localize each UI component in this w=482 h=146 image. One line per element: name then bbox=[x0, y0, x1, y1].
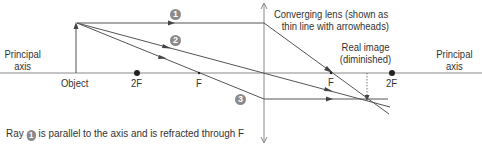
caption: Ray 1 is parallel to the axis and is ref… bbox=[6, 127, 244, 141]
ray-1-badge: 1 bbox=[170, 9, 181, 20]
right-2f-label: 2F bbox=[386, 77, 397, 89]
principal-axis-left-label: Principal axis bbox=[2, 48, 43, 72]
label-line: Principal bbox=[2, 48, 43, 60]
caption-ray-badge: 1 bbox=[26, 130, 35, 141]
ray-diagram bbox=[0, 0, 482, 146]
label-line: axis bbox=[432, 60, 477, 72]
label-line: axis bbox=[2, 60, 43, 72]
ray-2-badge: 2 bbox=[170, 35, 181, 46]
label-line: thin line with arrowheads) bbox=[274, 20, 389, 32]
label-line: (diminished) bbox=[338, 53, 393, 65]
lens-label: Converging lens (shown as thin line with… bbox=[274, 8, 389, 32]
right-f-dot bbox=[330, 72, 332, 74]
caption-text: is parallel to the axis and is refracted… bbox=[39, 127, 245, 139]
right-2f-dot bbox=[389, 70, 395, 76]
label-line: Real image bbox=[338, 41, 393, 53]
right-f-label: F bbox=[328, 76, 334, 88]
label-line: Principal bbox=[432, 48, 477, 60]
left-f-dot bbox=[198, 72, 200, 74]
ray-2 bbox=[77, 23, 390, 107]
caption-prefix: Ray bbox=[6, 127, 24, 139]
real-image-label: Real image (diminished) bbox=[338, 41, 393, 65]
left-f-label: F bbox=[196, 77, 202, 89]
left-2f-label: 2F bbox=[131, 77, 142, 89]
principal-axis-right-label: Principal axis bbox=[432, 48, 477, 72]
label-line: Converging lens (shown as bbox=[274, 8, 389, 20]
left-2f-dot bbox=[134, 70, 140, 76]
ray-3-incident bbox=[77, 23, 264, 99]
object-label: Object bbox=[61, 77, 88, 89]
ray-3-badge: 3 bbox=[235, 94, 246, 105]
